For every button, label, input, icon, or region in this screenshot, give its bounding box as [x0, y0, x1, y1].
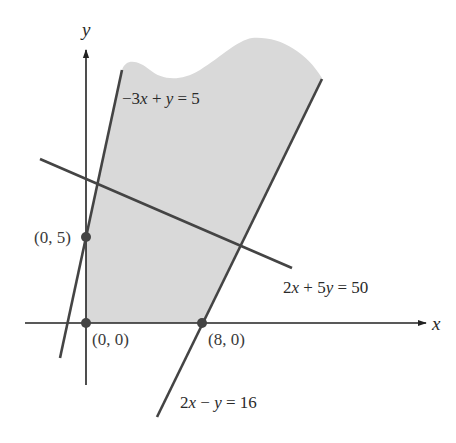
- x-axis-label: x: [431, 313, 441, 334]
- equation-variable: y: [324, 278, 334, 297]
- point-label-0-0: (0, 0): [92, 330, 129, 349]
- equation-text: = 5: [173, 89, 200, 108]
- equation-label-2x-plus-5y-eq-50: 2x + 5y = 50: [283, 278, 368, 297]
- feasible-region-diagram: y x (0, 5) (0, 0) (8, 0) −3x + y = 5 2x …: [0, 0, 456, 443]
- equation-label-neg3x-plus-y-eq-5: −3x + y = 5: [122, 89, 200, 108]
- equation-label-2x-minus-y-eq-16: 2x − y = 16: [180, 393, 257, 412]
- equation-variable: y: [164, 89, 174, 108]
- equation-text: + 5: [299, 278, 326, 297]
- equation-text: −3: [122, 89, 140, 108]
- equation-text: = 16: [222, 393, 257, 412]
- point-0-0: [81, 318, 91, 328]
- y-axis-label: y: [80, 19, 91, 40]
- equation-text: +: [148, 89, 166, 108]
- point-label-0-5: (0, 5): [34, 228, 71, 247]
- equation-variable: y: [212, 393, 222, 412]
- equation-text: 2: [283, 278, 292, 297]
- point-0-5: [81, 232, 91, 242]
- point-label-8-0: (8, 0): [208, 330, 245, 349]
- equation-text: 2: [180, 393, 189, 412]
- point-8-0: [197, 318, 207, 328]
- equation-text: −: [196, 393, 214, 412]
- equation-text: = 50: [333, 278, 368, 297]
